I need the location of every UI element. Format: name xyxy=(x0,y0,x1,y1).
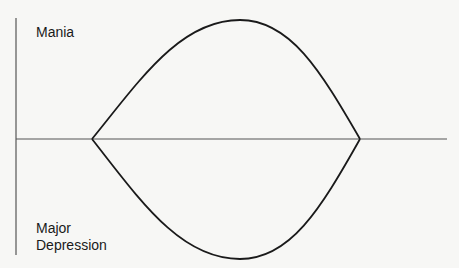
mania-label: Mania xyxy=(36,24,74,41)
mania-curve xyxy=(92,20,360,139)
major-depression-label-line1: Major xyxy=(36,220,107,237)
depression-curve xyxy=(92,139,360,259)
major-depression-label: Major Depression xyxy=(36,220,107,254)
major-depression-label-line2: Depression xyxy=(36,237,107,254)
